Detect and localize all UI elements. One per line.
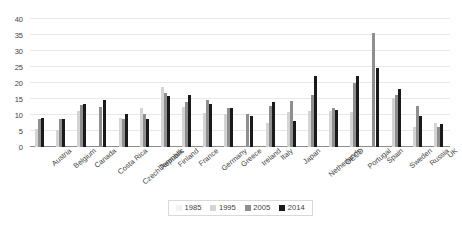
bar: [440, 124, 443, 147]
x-axis-tick-label: Japan: [302, 147, 323, 166]
bar-group: [219, 19, 240, 147]
bar: [398, 89, 401, 147]
x-axis-tick-label: Ireland: [260, 147, 282, 168]
bar-group: [72, 19, 93, 147]
chart-legend: 1985199520052014: [168, 200, 313, 216]
bar: [62, 119, 65, 147]
y-axis-tick-label: 5: [19, 128, 23, 136]
bar: [146, 119, 149, 147]
y-axis-tick-label: 15: [15, 96, 23, 104]
bar-group: [51, 19, 72, 147]
bar: [272, 102, 275, 147]
bar: [335, 110, 338, 147]
bar-group: [303, 19, 324, 147]
bar-group: [177, 19, 198, 147]
y-axis-tick-label: 25: [15, 64, 23, 72]
bar-group: [429, 19, 450, 147]
bar-group: [408, 19, 429, 147]
bar-group: [240, 19, 261, 147]
y-axis-tick-label: 10: [15, 112, 23, 120]
legend-entry[interactable]: 1995: [210, 204, 235, 212]
legend-label: 1985: [185, 204, 202, 212]
bar-group: [366, 19, 387, 147]
bar-group: [135, 19, 156, 147]
x-axis: AustriaBelgiumCanadaCosta RicaCzech Repu…: [30, 147, 450, 207]
y-axis-tick-label: 40: [15, 16, 23, 24]
y-axis: 0510152025303540: [0, 19, 26, 147]
bar-group: [114, 19, 135, 147]
x-axis-tick-label: Canada: [93, 147, 118, 170]
legend-label: 2005: [253, 204, 270, 212]
bar: [293, 121, 296, 147]
y-axis-tick-label: 20: [15, 80, 23, 88]
y-axis-tick-label: 0: [19, 144, 23, 152]
legend-swatch-icon: [279, 205, 285, 211]
x-axis-tick-label: UK: [447, 147, 460, 160]
x-axis-tick-label: France: [197, 147, 220, 168]
x-axis-tick-label: Austria: [50, 147, 73, 168]
x-axis-tick-label: Costa Rica: [117, 147, 150, 176]
legend-swatch-icon: [176, 205, 182, 211]
bar: [167, 96, 170, 147]
bar-group: [156, 19, 177, 147]
bar-group: [261, 19, 282, 147]
y-axis-tick-label: 35: [15, 32, 23, 40]
legend-label: 2014: [288, 204, 305, 212]
bar-group: [282, 19, 303, 147]
x-axis-tick-label: Belgium: [72, 147, 98, 170]
bar-group: [387, 19, 408, 147]
plot-area: [30, 19, 450, 147]
bar: [41, 118, 44, 147]
bar: [314, 76, 317, 147]
legend-swatch-icon: [210, 205, 216, 211]
bar-group: [198, 19, 219, 147]
bars-layer: [30, 19, 450, 147]
bar: [250, 116, 253, 147]
y-axis-tick-label: 30: [15, 48, 23, 56]
x-axis-tick-label: OECD: [344, 147, 366, 167]
bar: [419, 116, 422, 147]
bar-group: [324, 19, 345, 147]
legend-label: 1995: [219, 204, 236, 212]
bar: [103, 100, 106, 147]
x-axis-tick-label: Italy: [279, 147, 295, 162]
bar-group: [30, 19, 51, 147]
bar: [125, 114, 128, 147]
bar-group: [345, 19, 366, 147]
bar: [83, 104, 86, 147]
bar: [230, 108, 233, 147]
legend-entry[interactable]: 1985: [176, 204, 201, 212]
bar: [356, 76, 359, 147]
legend-swatch-icon: [245, 205, 251, 211]
legend-entry[interactable]: 2014: [279, 204, 304, 212]
bar: [209, 104, 212, 147]
bar-group: [93, 19, 114, 147]
bar-chart: 0510152025303540 AustriaBelgiumCanadaCos…: [0, 0, 462, 230]
legend-entry[interactable]: 2005: [245, 204, 270, 212]
bar: [376, 68, 379, 147]
bar: [188, 95, 191, 147]
